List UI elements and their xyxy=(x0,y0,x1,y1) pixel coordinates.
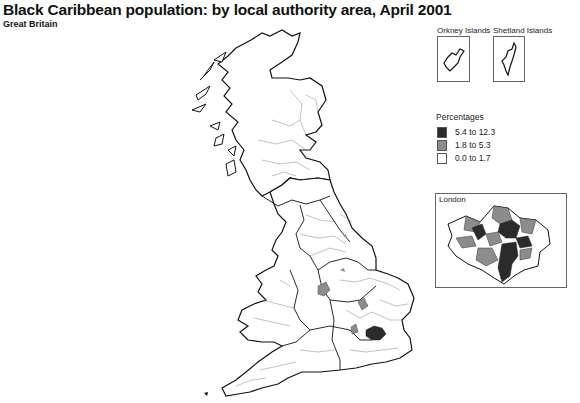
orkney-inset xyxy=(437,36,470,82)
shetland-inset xyxy=(493,36,525,82)
orkney-islands-shape xyxy=(438,37,469,81)
legend-swatch-light xyxy=(437,153,447,164)
legend-item-low: 0.0 to 1.7 xyxy=(437,152,490,164)
legend-swatch-dark xyxy=(437,127,447,138)
legend-swatch-mid xyxy=(437,140,447,151)
orkney-label: Orkney Islands xyxy=(437,26,490,35)
shetland-islands-shape xyxy=(494,37,524,81)
legend-item-high: 5.4 to 12.3 xyxy=(437,126,495,138)
london-boroughs-map xyxy=(436,194,566,287)
legend-title: Percentages xyxy=(436,112,484,122)
shetland-label: Shetland Islands xyxy=(493,26,552,35)
london-inset: London xyxy=(435,193,567,288)
legend-item-mid: 1.8 to 5.3 xyxy=(437,139,490,151)
